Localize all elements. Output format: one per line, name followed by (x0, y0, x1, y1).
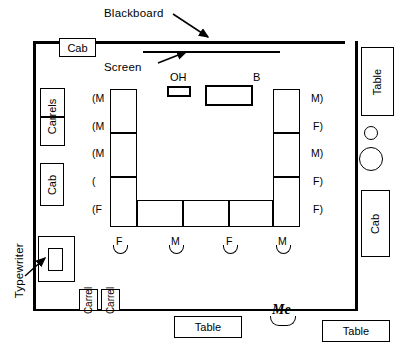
table-bottom-right: Table (322, 320, 390, 342)
bookcase (205, 85, 253, 106)
large-round-table (359, 147, 383, 171)
small-round-table (364, 126, 378, 140)
carrel-bottom-1: Carrel (79, 289, 98, 311)
seat-right-2: F) (313, 121, 323, 132)
table-segment-bottom-2 (183, 200, 229, 227)
seat-right-1: M) (311, 93, 323, 104)
carrel-bottom-2: Carrel (101, 289, 120, 311)
carrel-bottom-1-label: Carrel (83, 286, 94, 313)
cabinet-right: Cab (361, 190, 390, 257)
chair-glyph-bottom-3 (223, 245, 238, 254)
cabinet-top-left-label: Cab (60, 39, 95, 56)
table-bottom-center: Table (174, 316, 242, 338)
seat-right-4: F) (313, 176, 323, 187)
table-segment-left-1 (110, 89, 137, 133)
projection-screen (143, 51, 280, 53)
blackboard-label: Blackboard (104, 8, 164, 20)
carrel-bottom-2-label: Carrel (105, 286, 116, 313)
carrels-left-label: Carrels (47, 97, 58, 136)
bookcase-label: B (253, 72, 260, 83)
table-segment-right-1 (273, 89, 300, 133)
table-segment-right-2 (273, 133, 300, 177)
overhead-projector-label: OH (170, 72, 187, 83)
table-segment-bottom-1 (137, 200, 183, 227)
wall-left (33, 41, 36, 311)
table-segment-right-3 (273, 177, 300, 227)
table-bottom-center-label: Table (175, 317, 241, 337)
wall-right (355, 41, 358, 311)
table-top-right-label: Table (371, 68, 383, 94)
chair-glyph-bottom-1 (113, 245, 128, 254)
overhead-projector (167, 86, 191, 97)
table-bottom-right-label: Table (323, 321, 389, 341)
table-segment-left-2 (110, 133, 137, 177)
table-top-right: Table (361, 47, 394, 116)
classroom-layout-diagram: Blackboard Screen Cab Carrels Cab Typewr… (0, 0, 402, 351)
chair-glyph-bottom-4 (276, 245, 291, 254)
seat-left-4: ( (92, 176, 96, 187)
chair-glyph-me (270, 316, 296, 326)
seat-left-2: (M (92, 121, 104, 132)
seat-left-1: (M (92, 93, 104, 104)
cabinet-right-label: Cab (370, 213, 382, 233)
seat-left-5: (F (92, 204, 102, 215)
table-segment-bottom-3 (229, 200, 273, 227)
typewriter-machine (48, 248, 63, 271)
seat-left-3: (M (92, 148, 104, 159)
cabinet-left-label: Cab (46, 174, 58, 194)
seat-right-5: F) (313, 204, 323, 215)
typewriter-label: Typewriter (14, 236, 26, 306)
wall-top-blackboard (57, 41, 345, 44)
seat-right-3: M) (311, 148, 323, 159)
chair-glyph-bottom-2 (169, 245, 184, 254)
wall-top-left-stub (33, 41, 59, 44)
cabinet-left: Cab (40, 163, 64, 206)
screen-label: Screen (104, 62, 142, 74)
me-label: Me (272, 303, 291, 317)
cabinet-top-left: Cab (59, 38, 96, 57)
table-segment-left-3 (110, 177, 137, 227)
